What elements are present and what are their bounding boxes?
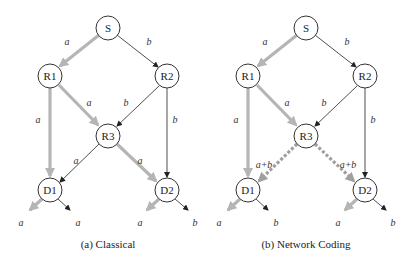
node-d2: D2 bbox=[155, 178, 179, 202]
edge-r3-d2 bbox=[117, 144, 156, 181]
node-r2: R2 bbox=[155, 64, 179, 88]
label-output-d2-left: a bbox=[138, 217, 143, 228]
output-d2-left bbox=[345, 199, 357, 210]
label-r2-r3: b bbox=[322, 97, 327, 108]
diagram-network-coding: a b a a b b a+b a+b a b a b S R1 R2 R3 D… bbox=[217, 16, 396, 251]
output-d2-left bbox=[147, 199, 159, 210]
svg-text:R3: R3 bbox=[102, 130, 115, 142]
label-output-d2-right: b bbox=[193, 217, 198, 228]
node-s: S bbox=[96, 16, 120, 40]
caption-network-coding: (b) Network Coding bbox=[261, 238, 351, 251]
svg-text:R1: R1 bbox=[242, 70, 255, 82]
label-r3-d1: a bbox=[74, 155, 79, 166]
edge-r1-r3 bbox=[257, 85, 296, 125]
svg-text:R3: R3 bbox=[300, 130, 313, 142]
label-r2-d2: b bbox=[371, 114, 376, 125]
svg-text:D1: D1 bbox=[43, 184, 56, 196]
label-s-r1: a bbox=[263, 36, 268, 47]
node-d1: D1 bbox=[38, 178, 62, 202]
svg-text:R1: R1 bbox=[44, 70, 57, 82]
edge-r3-d1 bbox=[60, 144, 99, 182]
label-r1-r3: a bbox=[285, 97, 290, 108]
svg-text:D1: D1 bbox=[241, 184, 254, 196]
label-output-d2-right: b bbox=[391, 217, 396, 228]
label-s-r2: b bbox=[147, 36, 152, 47]
label-r2-d2: b bbox=[173, 114, 178, 125]
label-output-d1-left: a bbox=[19, 217, 24, 228]
network-coding-figure: a b a a b b a a a a a b S R1 R2 R3 D1 D2… bbox=[0, 0, 413, 263]
caption-classical: (a) Classical bbox=[81, 238, 136, 251]
label-r3-d1: a+b bbox=[256, 159, 273, 170]
label-r3-d2: a+b bbox=[340, 159, 357, 170]
node-r2: R2 bbox=[353, 64, 377, 88]
svg-text:R2: R2 bbox=[161, 70, 174, 82]
label-r1-d1: a bbox=[36, 114, 41, 125]
label-s-r1: a bbox=[65, 36, 70, 47]
node-s: S bbox=[294, 16, 318, 40]
edge-s-r2 bbox=[315, 35, 356, 67]
label-s-r2: b bbox=[345, 36, 350, 47]
label-r1-r3: a bbox=[87, 97, 92, 108]
svg-text:D2: D2 bbox=[160, 184, 173, 196]
svg-text:S: S bbox=[303, 22, 309, 34]
node-r1: R1 bbox=[38, 64, 62, 88]
edge-r1-r3 bbox=[59, 85, 98, 125]
output-d2-right bbox=[373, 199, 386, 210]
output-d1-left bbox=[30, 199, 42, 210]
label-r3-d2: a bbox=[138, 155, 143, 166]
svg-text:R2: R2 bbox=[359, 70, 372, 82]
svg-text:S: S bbox=[105, 22, 111, 34]
output-d2-right bbox=[175, 199, 188, 210]
label-output-d1-left: a bbox=[217, 217, 222, 228]
node-r3: R3 bbox=[96, 124, 120, 148]
label-output-d2-left: a bbox=[336, 217, 341, 228]
output-d1-right bbox=[58, 199, 70, 210]
label-output-d1-right: b bbox=[274, 217, 279, 228]
node-d1: D1 bbox=[236, 178, 260, 202]
label-r1-d1: a bbox=[234, 114, 239, 125]
output-d1-left bbox=[228, 199, 240, 210]
diagram-classical: a b a a b b a a a a a b S R1 R2 R3 D1 D2… bbox=[19, 16, 198, 251]
node-r1: R1 bbox=[236, 64, 260, 88]
output-d1-right bbox=[256, 199, 268, 210]
label-r2-r3: b bbox=[124, 97, 129, 108]
edge-s-r2 bbox=[117, 35, 158, 67]
node-r3: R3 bbox=[294, 124, 318, 148]
svg-text:D2: D2 bbox=[358, 184, 371, 196]
node-d2: D2 bbox=[353, 178, 377, 202]
label-output-d1-right: a bbox=[76, 217, 81, 228]
